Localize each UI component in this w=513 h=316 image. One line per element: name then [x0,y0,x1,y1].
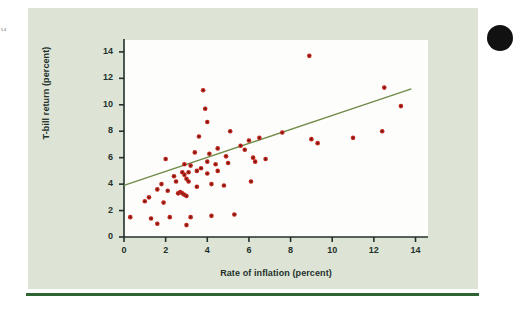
scatter-point-core [240,145,242,147]
scatter-point-core [167,190,169,192]
scatter-point-core [281,132,283,134]
scatter-point-core [161,183,163,185]
scatter-point-core [175,181,177,183]
y-axis-title: T-bill return (percent) [41,13,51,173]
scatter-point-core [400,105,402,107]
scatter-point-core [181,171,183,173]
scatter-point-core [196,186,198,188]
x-tick-label: 4 [196,245,218,255]
scatter-point-core [217,170,219,172]
scatter-point-core [206,121,208,123]
scatter-point-core [310,138,312,140]
scatter-point-core [383,87,385,89]
scatter-point-core [188,171,190,173]
scatter-point-core [183,163,185,165]
tick-marks [119,52,416,242]
scatter-point-core [200,167,202,169]
scatter-point-core [190,216,192,218]
x-tick-label: 0 [113,245,135,255]
scatter-point-core [265,158,267,160]
scatter-point-core [165,158,167,160]
scatter-point-core [317,142,319,144]
scatter-point-core [144,200,146,202]
x-tick-label: 6 [238,245,260,255]
x-tick-label: 10 [321,245,343,255]
scatter-point-core [252,157,254,159]
axis-lines [124,39,428,237]
scatter-point-core [204,108,206,110]
x-axis-title: Rate of inflation (percent) [124,268,428,278]
scatter-point-core [156,189,158,191]
trendline-segment [124,89,411,186]
y-tick-label: 0 [91,231,113,241]
scatter-point-core [248,140,250,142]
scatter-point-core [254,161,256,163]
trendline [124,89,411,186]
scatter-point-core [190,165,192,167]
scatter-point-core [169,216,171,218]
scatter-point-core [227,162,229,164]
scatter-point-core [250,181,252,183]
scatter-point-core [196,170,198,172]
scatter-point-core [381,130,383,132]
scatter-point-core [198,136,200,138]
x-tick-label: 14 [405,245,427,255]
scatter-point-core [233,214,235,216]
scatter-point-core [186,178,188,180]
scatter-point-core [156,223,158,225]
scatter-point-core [244,149,246,151]
y-tick-label: 12 [91,72,113,82]
scatter-point-core [150,218,152,220]
x-tick-label: 8 [280,245,302,255]
scatter-points [128,54,403,228]
scatter-point-core [129,216,131,218]
y-tick-label: 6 [91,152,113,162]
scatter-point-core [215,163,217,165]
scatter-point-core [163,202,165,204]
scatter-point-core [211,183,213,185]
scatter-point-core [173,175,175,177]
scatter-point-core [225,155,227,157]
scatter-point-core [258,137,260,139]
y-tick-label: 8 [91,125,113,135]
footer-rule [26,293,479,296]
x-tick-label: 2 [155,245,177,255]
scatter-point-core [206,161,208,163]
scatter-point-core [223,185,225,187]
scatter-point-core [188,181,190,183]
scatter-point-core [194,151,196,153]
scatter-point-core [352,137,354,139]
scatter-point-core [206,173,208,175]
x-tick-label: 12 [363,245,385,255]
y-tick-label: 4 [91,178,113,188]
y-tick-label: 14 [91,46,113,56]
scatter-point-core [148,196,150,198]
scatter-point-core [217,148,219,150]
scatter-point-core [202,89,204,91]
scatter-point-core [186,224,188,226]
scatter-point-core [208,153,210,155]
scatter-point-core [211,215,213,217]
y-tick-label: 10 [91,99,113,109]
scatter-point-core [229,130,231,132]
y-tick-label: 2 [91,205,113,215]
scatter-point-core [186,195,188,197]
scatter-point-core [308,55,310,57]
scatter-point-core [183,174,185,176]
